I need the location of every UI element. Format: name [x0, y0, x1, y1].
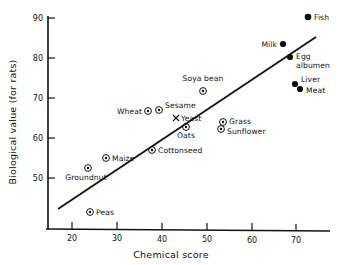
y-tick-label-70: 70	[33, 94, 43, 103]
point-label-maize: Maize	[112, 154, 135, 163]
x-tick-label-20: 20	[67, 234, 77, 243]
x-axis-ticks: 20 30 40 50 60 70	[67, 222, 301, 245]
x-tick-label-60: 60	[247, 236, 257, 245]
point-label-yeast: Yeast	[180, 114, 201, 123]
data-point-cottonseed: Cottonseed	[149, 146, 203, 155]
point-label-liver: Liver	[301, 75, 321, 84]
point-label-sesame: Sesame	[165, 101, 196, 110]
x-tick-label-70: 70	[291, 236, 301, 245]
filled-dot-icon	[292, 81, 298, 87]
filled-dot-icon	[280, 41, 286, 47]
point-label-oats: Oats	[177, 131, 195, 140]
point-label-wheat: Wheat	[117, 107, 142, 116]
point-label-grass: Grass	[229, 117, 251, 126]
data-point-wheat: Wheat	[117, 107, 152, 116]
filled-dot-icon	[287, 54, 293, 60]
x-tick-label-40: 40	[157, 235, 167, 244]
x-mark-icon	[173, 115, 179, 121]
data-point-egg-albumen: Egg albumen	[287, 52, 330, 70]
circled-dot-icon	[145, 108, 152, 115]
point-label-fish: Fish	[314, 13, 329, 22]
y-tick-label-90: 90	[33, 14, 43, 23]
data-point-meat: Meat	[297, 86, 325, 95]
data-point-sunflower: Sunflower	[218, 126, 267, 136]
point-label-peas: Peas	[96, 208, 114, 217]
data-point-milk: Milk	[261, 40, 286, 49]
point-label-groundnut: Groundnut	[65, 173, 106, 182]
y-axis-ticks: 90 80 70 60 50	[33, 14, 55, 183]
data-point-groundnut: Groundnut	[65, 165, 106, 182]
circled-dot-icon	[200, 88, 207, 95]
data-point-oats: Oats	[177, 124, 195, 140]
data-point-fish: Fish	[305, 13, 329, 22]
scatter-chart: 90 80 70 60 50 20 30 40 50 60 70 Chemica…	[0, 0, 342, 265]
data-point-grass: Grass	[220, 117, 251, 126]
y-tick-label-80: 80	[33, 54, 43, 63]
point-label-egg: Egg	[296, 52, 311, 61]
point-label-soya-bean: Soya bean	[183, 74, 224, 83]
circled-dot-icon	[149, 147, 156, 154]
circled-dot-icon	[103, 155, 110, 162]
x-axis-line	[46, 229, 330, 231]
data-point-yeast: Yeast	[173, 114, 201, 123]
x-tick-label-50: 50	[202, 235, 212, 244]
axis-lines	[46, 16, 330, 231]
x-axis-title: Chemical score	[133, 249, 208, 260]
chart-canvas: 90 80 70 60 50 20 30 40 50 60 70 Chemica…	[0, 0, 342, 265]
y-tick-label-50: 50	[33, 174, 43, 183]
point-label-sunflower: Sunflower	[227, 127, 267, 136]
trend-line	[58, 37, 316, 209]
y-axis-title: Biological value (for rats)	[7, 59, 18, 184]
circled-dot-icon	[85, 165, 92, 172]
point-label-albumen: albumen	[296, 61, 330, 70]
y-tick-label-60: 60	[33, 134, 43, 143]
point-label-milk: Milk	[261, 40, 277, 49]
x-tick-label-30: 30	[112, 234, 122, 243]
filled-dot-icon	[297, 86, 303, 92]
point-label-cottonseed: Cottonseed	[158, 146, 203, 155]
data-point-soya-bean: Soya bean	[183, 74, 224, 94]
circled-dot-icon	[220, 119, 227, 126]
point-label-meat: Meat	[306, 86, 325, 95]
data-point-peas: Peas	[87, 208, 114, 217]
circled-dot-icon	[87, 209, 94, 216]
circled-dot-icon	[156, 107, 163, 114]
data-point-maize: Maize	[103, 154, 135, 163]
circled-dot-icon	[218, 126, 225, 133]
data-points: Fish Milk Egg albumen Liver Meat	[65, 13, 330, 217]
data-point-sesame: Sesame	[156, 101, 196, 113]
filled-dot-icon	[305, 14, 312, 21]
